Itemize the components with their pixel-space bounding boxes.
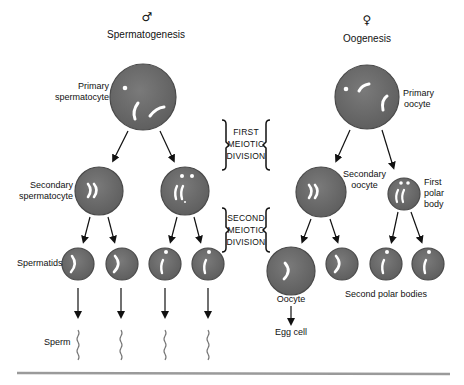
- second-polar-body-cell: [412, 248, 444, 280]
- label-line: FIRST: [226, 126, 266, 138]
- arrow: [330, 219, 337, 240]
- arrow: [108, 217, 114, 240]
- secondary-spermatocyte-label: Secondary spermatocyte: [0, 180, 73, 202]
- label-line: polar: [424, 188, 444, 199]
- label-line: First: [424, 177, 444, 188]
- label-line: DIVISION: [226, 150, 266, 162]
- sperm-cells: [77, 330, 209, 360]
- arrow: [392, 212, 398, 240]
- arrow: [382, 130, 393, 166]
- arrow: [171, 217, 177, 240]
- secondary-spermatocyte-cell-right: [161, 167, 209, 215]
- arrow: [160, 131, 173, 159]
- spermatid-cell: [106, 248, 138, 280]
- sperm-label: Sperm: [44, 337, 71, 348]
- baseline-divider: [17, 373, 450, 374]
- arrow: [303, 219, 311, 240]
- arrow: [114, 131, 128, 159]
- secondary-oocyte-label: Secondary oocyte: [343, 169, 386, 191]
- label-line: body: [424, 199, 444, 210]
- egg-cell-label: Egg cell: [275, 327, 307, 338]
- first-polar-body-label: First polar body: [424, 177, 444, 210]
- male-symbol-icon: ♂: [142, 12, 153, 23]
- oocyte-label: Oocyte: [277, 294, 306, 305]
- arrow: [194, 217, 200, 240]
- spermatogenesis-title: Spermatogenesis: [107, 29, 185, 40]
- oocyte-cell: [267, 247, 315, 295]
- female-symbol-icon: ♀: [363, 15, 372, 26]
- label-line: spermatocyte: [0, 191, 73, 202]
- primary-spermatocyte-label: Primary spermatocyte: [29, 81, 109, 103]
- label-line: spermatocyte: [29, 92, 109, 103]
- label-line: Primary: [403, 88, 434, 99]
- label-line: Secondary: [0, 180, 73, 191]
- spermatid-cell: [62, 248, 94, 280]
- first-polar-body-cell: [388, 178, 420, 210]
- second-polar-body-cell: [370, 248, 402, 280]
- label-line: Primary: [29, 81, 109, 92]
- first-meiotic-division-label: FIRST MEIOTIC DIVISION: [226, 126, 266, 162]
- second-polar-body-cell: [326, 248, 358, 280]
- arrow: [337, 130, 350, 159]
- label-line: DIVISION: [226, 236, 266, 248]
- label-line: SECOND: [226, 212, 266, 224]
- label-line: Secondary: [343, 169, 386, 180]
- second-polar-bodies-label: Second polar bodies: [345, 289, 427, 300]
- primary-spermatocyte-cell: [110, 64, 176, 130]
- spermatids-label: Spermatids: [17, 258, 63, 269]
- second-meiotic-division-label: SECOND MEIOTIC DIVISION: [226, 212, 266, 248]
- arrow: [84, 217, 90, 240]
- label-line: oocyte: [403, 99, 434, 110]
- primary-oocyte-label: Primary oocyte: [403, 88, 434, 110]
- secondary-spermatocyte-cell-left: [75, 167, 123, 215]
- label-line: MEIOTIC: [226, 138, 266, 150]
- spermatid-cell: [149, 248, 181, 280]
- oogenesis-title: Oogenesis: [343, 33, 391, 44]
- primary-oocyte-cell: [335, 65, 399, 129]
- arrow: [411, 212, 421, 240]
- label-line: MEIOTIC: [226, 224, 266, 236]
- spermatid-cell: [192, 248, 224, 280]
- secondary-oocyte-cell: [296, 167, 346, 217]
- label-line: oocyte: [343, 180, 386, 191]
